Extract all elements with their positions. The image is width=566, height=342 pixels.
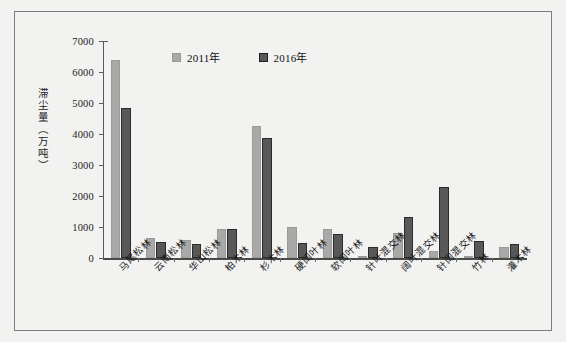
y-tick-label: 7000 [72,36,94,47]
chart-figure: 滞尘量（万吨） 2011年 2016年 70006000500040003000… [0,0,566,342]
y-tick-label: 0 [89,253,94,264]
plot-area: 70006000500040003000200010000 马尾松林云南松林华山… [103,41,527,258]
y-tick-label: 4000 [72,129,94,140]
bar-group [138,41,173,258]
bar-2011年 [429,251,439,258]
bar-group [386,41,421,258]
y-tick-mark [99,258,104,259]
bar-2011年 [499,247,509,258]
y-tick-label: 3000 [72,160,94,171]
bar-2011年 [287,227,297,258]
bar-2016年 [262,138,272,258]
bar-group [280,41,315,258]
y-tick-label: 2000 [72,191,94,202]
bar-group [174,41,209,258]
bar-group [315,41,350,258]
bar-2016年 [121,108,131,258]
bar-group [350,41,385,258]
bar-2011年 [111,60,121,258]
bar-group [244,41,279,258]
bar-group [492,41,527,258]
y-tick-label: 6000 [72,67,94,78]
bar-group [421,41,456,258]
bar-group [103,41,138,258]
bar-group [456,41,491,258]
bar-group [209,41,244,258]
y-tick-label: 1000 [72,222,94,233]
bar-2011年 [252,126,262,258]
bar-2011年 [464,256,474,258]
bar-2011年 [358,256,368,258]
y-tick-label: 5000 [72,98,94,109]
y-axis-title: 滞尘量（万吨） [28,88,46,172]
bar-2016年 [439,187,449,258]
